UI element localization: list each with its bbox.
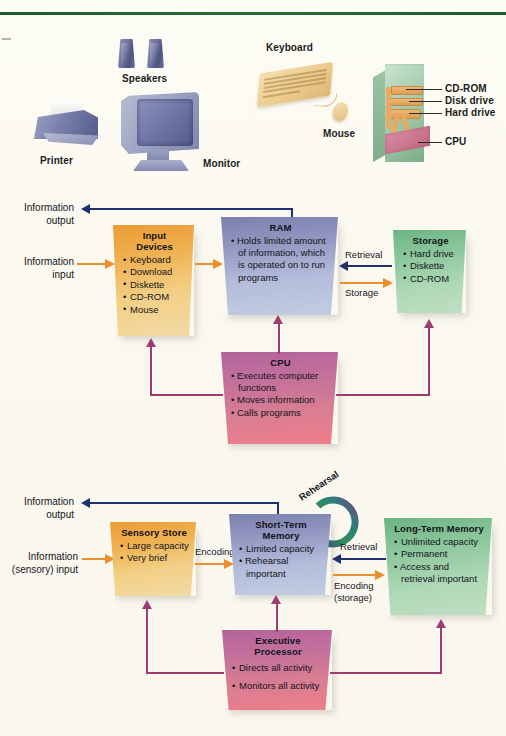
- memory-retrieval-arrowhead: [332, 554, 341, 564]
- box-cpu: CPU • Executes computer functions • Move…: [221, 352, 338, 444]
- retrieval-arrowhead: [339, 261, 348, 271]
- monitor-icon: [121, 92, 201, 172]
- box-cpu-item: • Executes computer functions: [231, 370, 330, 394]
- box-cpu-item-text: Executes computer functions: [237, 370, 318, 393]
- box-input-devices-item: Diskette: [123, 279, 186, 291]
- box-input-devices-item: CD-ROM: [123, 291, 186, 303]
- box-executive-processor-title: Executive Processor: [232, 635, 324, 657]
- label-hard-drive: Hard drive: [445, 107, 495, 118]
- label-information-input-line2: input: [0, 269, 74, 282]
- computer-information-processing-diagram: Information output Information input Inp…: [0, 192, 506, 452]
- box-long-term-memory-title: Long-Term Memory: [394, 523, 484, 534]
- label-disk-drive: Disk drive: [445, 95, 494, 106]
- rehearsal-label: Rehearsal: [297, 468, 341, 503]
- exec-to-sensory-arrowhead: [142, 600, 152, 609]
- box-storage-item: Diskette: [403, 260, 458, 272]
- hardware-illustration-panel: Speakers Printer Monitor Keyboard Mouse: [18, 20, 500, 188]
- monitor-base: [133, 160, 189, 171]
- memory-retrieval-line: [341, 558, 386, 560]
- box-sensory-store-item: Very brief: [120, 552, 188, 564]
- encoding-line: [195, 563, 225, 565]
- label-monitor: Monitor: [203, 158, 240, 169]
- box-storage-item: Hard drive: [403, 248, 458, 260]
- exec-to-ltm-vertical: [440, 628, 442, 673]
- top-rule: [0, 12, 506, 15]
- label-cd-rom: CD-ROM: [445, 83, 487, 94]
- box-sensory-store-title: Sensory Store: [120, 527, 188, 538]
- box-sensory-store: Sensory Store Large capacity Very brief: [110, 522, 196, 596]
- figure-page: Speakers Printer Monitor Keyboard Mouse: [0, 0, 506, 736]
- box-cpu-item-text: Calls programs: [237, 407, 301, 418]
- box-cpu-item: • Moves information: [231, 394, 330, 406]
- label-retrieval: Retrieval: [345, 249, 383, 261]
- cpu-to-ram-arrowhead: [273, 315, 283, 324]
- exec-to-stm-line: [276, 604, 278, 632]
- speaker-right-icon: [147, 39, 164, 68]
- exec-to-sensory-horizontal: [146, 672, 224, 674]
- exec-to-ltm-arrowhead: [436, 619, 446, 628]
- sensory-input-line: [82, 558, 106, 560]
- box-input-devices-item: Download: [123, 266, 186, 278]
- memory-information-processing-diagram: Rehearsal Information output Information…: [0, 478, 506, 736]
- box-storage-title: Storage: [403, 235, 458, 246]
- box-ram: RAM • Holds limited amount of informatio…: [221, 217, 338, 315]
- box-long-term-memory-item-text: Access and retrieval important: [400, 561, 477, 584]
- leader-line-disk-drive: [409, 101, 442, 102]
- box-input-devices-title: Input Devices: [123, 230, 186, 252]
- input-to-ram-line: [195, 263, 214, 265]
- mouse-icon: [330, 100, 350, 123]
- cpu-to-input-horizontal: [150, 394, 223, 396]
- label-memory-retrieval: Retrieval: [340, 541, 378, 553]
- leader-line-cd-rom: [406, 89, 442, 90]
- box-long-term-memory-item: • Access and retrieval important: [394, 561, 484, 585]
- cpu-to-storage-horizontal: [336, 394, 430, 396]
- label-speakers: Speakers: [122, 73, 167, 84]
- leader-line-cpu: [418, 142, 442, 143]
- box-executive-processor-item: Directs all activity: [232, 659, 324, 677]
- printer-icon: [34, 100, 104, 148]
- box-short-term-memory-title: Short-Term Memory: [239, 519, 323, 541]
- box-sensory-store-item: Large capacity: [120, 540, 188, 552]
- box-short-term-memory: Short-Term Memory Limited capacity • Reh…: [229, 514, 331, 595]
- label-mouse: Mouse: [323, 128, 355, 139]
- exec-to-ltm-horizontal: [330, 672, 442, 674]
- box-cpu-item-text: Moves information: [237, 394, 315, 405]
- cpu-to-storage-arrowhead: [424, 319, 434, 328]
- cpu-to-ram-line: [278, 324, 280, 354]
- box-input-devices: Input Devices Keyboard Download Diskette…: [113, 225, 194, 336]
- label-cpu: CPU: [445, 136, 466, 147]
- exec-to-stm-arrowhead: [271, 595, 281, 604]
- box-storage: Storage Hard drive Diskette CD-ROM: [393, 230, 466, 313]
- encoding-storage-line: [333, 574, 376, 576]
- label-information-output-line2: output: [0, 215, 74, 228]
- monitor-screen: [137, 99, 193, 146]
- label-memory-output-line2: output: [0, 509, 74, 522]
- speaker-left-icon: [118, 39, 135, 68]
- cd-rom-bay: [391, 86, 423, 95]
- label-encoding-storage: Encoding (storage): [334, 580, 374, 604]
- label-information-output: Information output: [0, 202, 74, 227]
- label-memory-input-line2: (sensory) input: [0, 564, 78, 577]
- box-ram-title: RAM: [231, 222, 330, 233]
- storage-line: [340, 282, 384, 284]
- box-cpu-title: CPU: [231, 357, 330, 368]
- box-executive-processor-item: Monitors all activity: [232, 677, 324, 695]
- label-memory-input-line1: Information: [0, 551, 78, 564]
- label-storage: Storage: [345, 287, 378, 299]
- cpu-to-input-vertical: [150, 347, 152, 395]
- exec-to-sensory-vertical: [146, 609, 148, 673]
- box-input-devices-item: Keyboard: [123, 254, 186, 266]
- label-memory-output-line1: Information: [0, 496, 74, 509]
- memory-output-arrowhead: [81, 498, 90, 508]
- leader-line-hard-drive: [409, 113, 442, 114]
- label-information-output-line1: Information: [0, 202, 74, 215]
- label-printer: Printer: [40, 155, 73, 166]
- label-encoding-storage-line2: (storage): [334, 592, 374, 604]
- box-long-term-memory: Long-Term Memory Unlimited capacity Perm…: [384, 518, 492, 615]
- output-arrowhead: [81, 204, 90, 214]
- box-long-term-memory-item: Permanent: [394, 548, 484, 560]
- box-storage-item: CD-ROM: [403, 273, 458, 285]
- cpu-to-input-arrowhead: [146, 338, 156, 347]
- memory-output-line-horizontal: [90, 502, 279, 504]
- box-cpu-item: • Calls programs: [231, 407, 330, 419]
